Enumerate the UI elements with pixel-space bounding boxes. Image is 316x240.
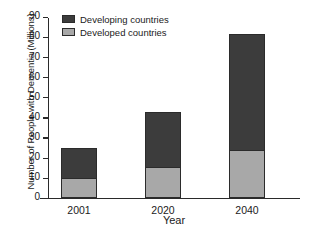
y-tick-label: 10 [29, 171, 40, 182]
y-tick-label: 30 [29, 131, 40, 142]
legend-label: Developed countries [80, 27, 167, 38]
bar-segment-2020-developing-countries [145, 112, 181, 167]
y-tick-label: 90 [29, 10, 40, 21]
plot-area: 0102030405060708090 200120202040 [48, 18, 300, 199]
y-tick-label: 40 [29, 111, 40, 122]
y-tick-60: 60 [43, 77, 48, 78]
bar-segment-2001-developing-countries [61, 148, 97, 178]
y-axis-line [48, 18, 49, 199]
y-tick-label: 50 [29, 91, 40, 102]
legend-label: Developing countries [80, 14, 169, 25]
bar-segment-2040-developed-countries [229, 150, 265, 198]
y-tick-70: 70 [43, 57, 48, 58]
bar-segment-2040-developing-countries [229, 34, 265, 150]
dementia-stacked-bar-chart: Number of People with Dementia (Millions… [0, 0, 316, 240]
chart-legend: Developing countriesDeveloped countries [62, 13, 169, 39]
y-tick-label: 20 [29, 151, 40, 162]
legend-swatch-icon [62, 15, 75, 23]
y-tick-label: 0 [34, 191, 40, 202]
legend-item: Developing countries [62, 13, 169, 25]
bar-segment-2020-developed-countries [145, 167, 181, 198]
x-axis-line [40, 198, 300, 199]
y-tick-label: 70 [29, 51, 40, 62]
y-tick-30: 30 [43, 137, 48, 138]
legend-swatch-icon [62, 28, 75, 36]
y-tick-40: 40 [43, 117, 48, 118]
y-tick-20: 20 [43, 158, 48, 159]
y-tick-50: 50 [43, 97, 48, 98]
y-tick-label: 60 [29, 71, 40, 82]
x-axis-title: Year [48, 214, 300, 226]
y-tick-10: 10 [43, 178, 48, 179]
y-tick-label: 80 [29, 30, 40, 41]
y-tick-0: 0 [43, 198, 48, 199]
y-tick-80: 80 [43, 37, 48, 38]
legend-item: Developed countries [62, 26, 169, 38]
bar-segment-2001-developed-countries [61, 178, 97, 198]
y-tick-90: 90 [43, 17, 48, 18]
